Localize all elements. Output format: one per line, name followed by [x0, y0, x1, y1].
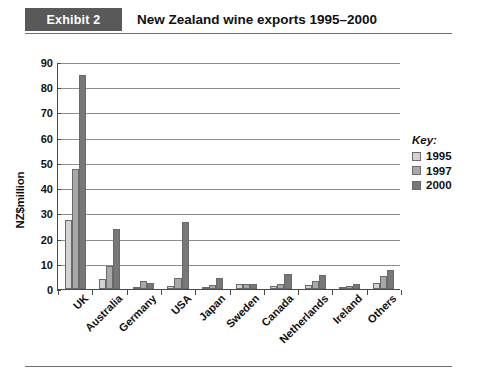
bar-australia-2000 [113, 229, 120, 289]
bar-canada-2000 [284, 274, 291, 289]
bar-group [298, 63, 332, 289]
bar-uk-1995 [65, 220, 72, 289]
bar-germany-2000 [147, 283, 154, 289]
bar-canada-1995 [270, 286, 277, 289]
y-axis-tick-label: 80 [29, 82, 53, 94]
exhibit-tag: Exhibit 2 [25, 8, 122, 31]
y-axis-tick-mark [57, 139, 61, 140]
y-axis-tick-mark [57, 189, 61, 190]
y-axis-tick-mark [57, 113, 61, 114]
bar-sweden-1997 [243, 284, 250, 289]
y-axis-tick-mark [57, 164, 61, 165]
bar-usa-1995 [167, 286, 174, 289]
x-axis-tick-label: Ireland [331, 292, 365, 326]
y-axis-tick-mark [57, 88, 61, 89]
bar-australia-1997 [106, 266, 113, 289]
bar-netherlands-1997 [312, 281, 319, 289]
bar-sweden-1995 [236, 284, 243, 289]
bar-japan-1997 [209, 285, 216, 289]
y-axis-tick-mark [57, 265, 61, 266]
bar-group [367, 63, 401, 289]
bar-sweden-2000 [250, 284, 257, 289]
legend-label-1995: 1995 [426, 150, 452, 162]
x-axis-tick-label: Sweden [224, 292, 262, 330]
legend-entry-1995: 1995 [412, 150, 474, 162]
legend-title: Key: [412, 134, 474, 146]
bar-netherlands-2000 [319, 275, 326, 289]
footer-divider [25, 366, 452, 367]
legend-entry-1997: 1997 [412, 165, 474, 177]
y-axis-tick-labels: 0102030405060708090 [26, 63, 53, 290]
bar-ireland-1997 [346, 286, 353, 289]
bar-group [230, 63, 264, 289]
x-axis-tick-label: USA [168, 292, 193, 317]
bar-others-2000 [387, 270, 394, 289]
bar-group [195, 63, 229, 289]
bar-group [92, 63, 126, 289]
bar-australia-1995 [99, 279, 106, 289]
bar-usa-2000 [182, 222, 189, 289]
bar-ireland-2000 [353, 284, 360, 289]
bar-japan-1995 [202, 287, 209, 289]
legend-label-1997: 1997 [426, 165, 452, 177]
bar-group [58, 63, 92, 289]
y-axis-tick-label: 10 [29, 259, 53, 271]
y-axis-tick-label: 50 [29, 158, 53, 170]
x-axis-tick-label: Others [365, 292, 399, 326]
bar-ireland-1995 [339, 287, 346, 289]
bar-chart: NZ$million 0102030405060708090 UKAustral… [0, 36, 477, 366]
bar-japan-2000 [216, 278, 223, 289]
bar-uk-2000 [79, 75, 86, 289]
x-axis-tick-label: Japan [196, 292, 227, 323]
bar-group [127, 63, 161, 289]
bar-group [332, 63, 366, 289]
y-axis-tick-label: 70 [29, 107, 53, 119]
bar-group [161, 63, 195, 289]
bar-others-1997 [380, 276, 387, 289]
legend-swatch-1995 [412, 152, 421, 161]
legend-label-2000: 2000 [426, 179, 452, 191]
legend-swatch-2000 [412, 181, 421, 190]
x-axis-tick-label: UK [70, 292, 90, 312]
bar-usa-1997 [174, 278, 181, 289]
y-axis-tick-label: 20 [29, 234, 53, 246]
y-axis-tick-label: 30 [29, 208, 53, 220]
y-axis-tick-label: 60 [29, 133, 53, 145]
bar-germany-1995 [133, 287, 140, 289]
y-axis-tick-mark [57, 290, 61, 291]
x-axis-tick-mark [401, 290, 402, 295]
bar-germany-1997 [140, 281, 147, 289]
y-axis-tick-label: 40 [29, 183, 53, 195]
y-axis-tick-mark [57, 63, 61, 64]
x-axis-tick-labels: UKAustraliaGermanyUSAJapanSwedenCanadaNe… [57, 292, 400, 366]
y-axis-tick-label: 90 [29, 57, 53, 69]
bar-canada-1997 [277, 284, 284, 289]
bar-group [264, 63, 298, 289]
bar-netherlands-1995 [305, 285, 312, 289]
legend-entries: 199519972000 [412, 150, 474, 191]
plot-area [57, 63, 400, 290]
y-axis-title: NZ$million [14, 155, 26, 245]
header-divider [25, 33, 452, 34]
bar-uk-1997 [72, 169, 79, 289]
y-axis-tick-label: 0 [29, 284, 53, 296]
y-axis-tick-mark [57, 214, 61, 215]
legend-swatch-1997 [412, 166, 421, 175]
chart-legend: Key: 199519972000 [412, 134, 474, 194]
legend-entry-2000: 2000 [412, 179, 474, 191]
y-axis-tick-mark [57, 240, 61, 241]
bar-others-1995 [373, 283, 380, 289]
page-title: New Zealand wine exports 1995–2000 [137, 8, 377, 31]
exhibit-header: Exhibit 2 New Zealand wine exports 1995–… [25, 8, 452, 31]
